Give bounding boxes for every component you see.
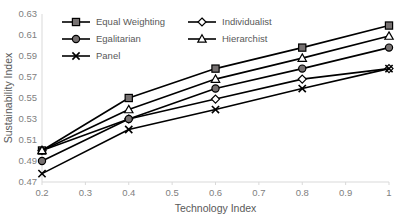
legend-item-individualist[interactable]: Individualist	[188, 16, 272, 27]
marker-square	[212, 65, 219, 72]
data-point	[212, 95, 220, 103]
x-tick-label: 0.9	[339, 187, 352, 198]
marker-diamond	[212, 95, 220, 103]
x-tick-label: 0.7	[252, 187, 265, 198]
y-tick-label: 0.61	[19, 29, 38, 40]
legend-label: Hierarchist	[222, 33, 268, 44]
marker-circle	[299, 65, 306, 72]
x-tick-label: 0.8	[296, 187, 309, 198]
marker-square	[72, 18, 79, 25]
y-axis-title: Sustainability Index	[2, 52, 14, 143]
data-point	[385, 22, 392, 29]
legend-marker	[72, 18, 79, 25]
data-point	[299, 65, 306, 72]
y-tick-label: 0.51	[19, 134, 38, 145]
marker-square	[125, 94, 132, 101]
x-tick-label: 0.4	[122, 187, 135, 198]
legend-marker	[72, 35, 79, 42]
data-point	[125, 94, 132, 101]
x-tick-label: 0.6	[209, 187, 222, 198]
marker-triangle	[385, 32, 393, 39]
legend-label: Equal Weighting	[96, 16, 165, 27]
y-tick-label: 0.57	[19, 71, 38, 82]
marker-diamond	[198, 18, 206, 26]
legend-label: Egalitarian	[96, 33, 141, 44]
y-tick-label: 0.59	[19, 50, 38, 61]
y-tick-label: 0.49	[19, 155, 38, 166]
x-tick-label: 0.2	[35, 187, 48, 198]
legend-label: Panel	[96, 50, 120, 61]
marker-circle	[125, 115, 132, 122]
legend-marker	[198, 18, 206, 26]
line-chart: 0.470.490.510.530.550.570.590.610.630.20…	[0, 0, 395, 222]
legend-item-panel[interactable]: Panel	[62, 50, 120, 61]
y-tick-label: 0.55	[19, 92, 38, 103]
legend-item-hierarchist[interactable]: Hierarchist	[188, 33, 268, 44]
marker-circle	[212, 85, 219, 92]
data-point	[212, 65, 219, 72]
y-tick-label: 0.47	[19, 176, 38, 187]
series-line	[42, 36, 389, 150]
plot-area	[38, 22, 393, 177]
legend-label: Individualist	[222, 16, 272, 27]
data-point	[385, 44, 392, 51]
y-tick-label: 0.63	[19, 8, 38, 19]
data-point	[298, 75, 306, 83]
x-tick-label: 0.5	[166, 187, 179, 198]
series-line	[42, 69, 389, 174]
marker-circle	[38, 157, 45, 164]
x-axis-title: Technology Index	[175, 202, 257, 214]
marker-circle	[72, 35, 79, 42]
x-axis-ticks: 0.20.30.40.50.60.70.80.91	[35, 182, 391, 198]
marker-square	[385, 22, 392, 29]
y-axis-ticks: 0.470.490.510.530.550.570.590.610.63	[19, 8, 38, 187]
chart-container: 0.470.490.510.530.550.570.590.610.630.20…	[0, 0, 395, 222]
marker-diamond	[298, 75, 306, 83]
data-point	[385, 32, 393, 39]
x-tick-label: 0.3	[79, 187, 92, 198]
data-point	[212, 85, 219, 92]
y-tick-label: 0.53	[19, 113, 38, 124]
data-point	[38, 157, 45, 164]
series-hierarchist	[38, 32, 393, 154]
legend-item-egalitarian[interactable]: Egalitarian	[62, 33, 141, 44]
marker-circle	[385, 44, 392, 51]
data-point	[125, 115, 132, 122]
marker-square	[299, 44, 306, 51]
x-tick-label: 1	[386, 187, 391, 198]
legend-item-equal-weighting[interactable]: Equal Weighting	[62, 16, 165, 27]
chart-legend: Equal WeightingIndividualistEgalitarianH…	[62, 16, 272, 61]
series-egalitarian	[38, 44, 392, 165]
data-point	[299, 44, 306, 51]
